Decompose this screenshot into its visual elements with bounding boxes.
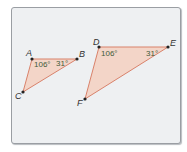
angle-b-label: 31° [56, 59, 68, 68]
vertex-f [83, 97, 86, 100]
vertex-c [21, 90, 24, 93]
label-b: B [79, 49, 85, 59]
label-d: D [93, 37, 100, 47]
triangle-abc: A B C 106° 31° [15, 48, 85, 101]
label-f: F [77, 98, 83, 108]
angle-a-label: 106° [34, 60, 51, 69]
label-c: C [15, 91, 22, 101]
similar-triangles-diagram: A B C 106° 31° D E F 106° 31° [0, 0, 187, 152]
triangle-def: D E F 106° 31° [77, 37, 177, 108]
angle-d-label: 106° [101, 49, 118, 58]
label-e: E [170, 38, 177, 48]
label-a: A [25, 48, 32, 58]
angle-e-label: 31° [146, 49, 158, 58]
